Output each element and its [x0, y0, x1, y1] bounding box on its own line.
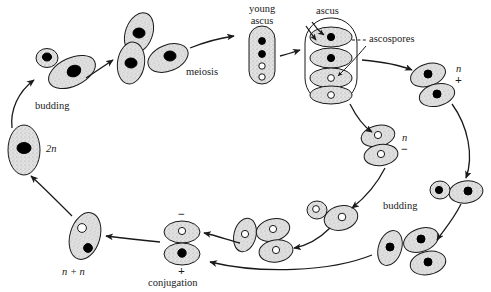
cell-budding-plus: [430, 179, 484, 206]
arrow-young-ascus-to-ascus: [280, 50, 300, 56]
arrow-budding-plus-to-progeny: [437, 204, 461, 240]
label-conjugation-minus-sign: −: [178, 208, 185, 221]
label-diploid-2n: 2n: [46, 143, 57, 154]
arrow-conjugation-to-zygote: [106, 236, 160, 242]
cells-conjugating-pair: [164, 221, 200, 265]
arrow-meiosis-to-young-ascus: [190, 36, 234, 48]
ascospore-1: [310, 27, 352, 47]
label-dikaryon-n-plus-n: n + n: [62, 266, 85, 277]
arrow-diploid-to-budding: [12, 80, 34, 128]
label-conjugation: conjugation: [148, 277, 198, 288]
cells-meiosis: [115, 9, 193, 86]
label-haploid-minus-sign: −: [401, 143, 408, 156]
cell-young-ascus: [249, 26, 275, 84]
cells-plus-progeny: [374, 223, 448, 278]
ascospore-4: [310, 86, 352, 104]
arrow-plus-to-budding: [452, 104, 470, 178]
life-cycle-svg: [0, 0, 491, 292]
cells-haploid-plus: [407, 59, 457, 110]
cell-diploid-2n: [8, 125, 40, 175]
yeast-life-cycle-diagram: budding meiosis young ascus ascus ascosp…: [0, 0, 491, 292]
label-young-ascus: young ascus: [241, 3, 283, 27]
label-young-ascus-line1: young: [241, 3, 283, 15]
arrow-minus-to-budding: [352, 168, 385, 208]
label-budding-left: budding: [35, 100, 69, 111]
cells-haploid-minus: [359, 122, 399, 168]
arrow-plus-progeny-to-conjugation: [210, 255, 372, 270]
cell-zygote-dikaryon: [64, 209, 106, 263]
label-meiosis: meiosis: [186, 66, 218, 77]
label-ascospores: ascospores: [369, 33, 415, 44]
ascospore-2: [310, 48, 352, 68]
label-young-ascus-line2: ascus: [241, 15, 283, 27]
cells-minus-progeny: [230, 215, 294, 264]
cell-ascus: [305, 18, 357, 104]
label-haploid-plus-sign: +: [455, 74, 462, 87]
arrow-zygote-to-diploid: [31, 176, 72, 216]
label-budding-right: budding: [383, 200, 417, 211]
label-conjugation-plus-sign: +: [178, 265, 185, 278]
arrow-ascus-to-plus: [362, 60, 412, 70]
cell-budding-minus: [307, 201, 360, 234]
cell-budding-diploid: [36, 49, 101, 96]
ascospore-3: [310, 68, 352, 88]
label-ascus: ascus: [316, 5, 339, 16]
arrow-budding-minus-to-progeny: [294, 228, 330, 248]
